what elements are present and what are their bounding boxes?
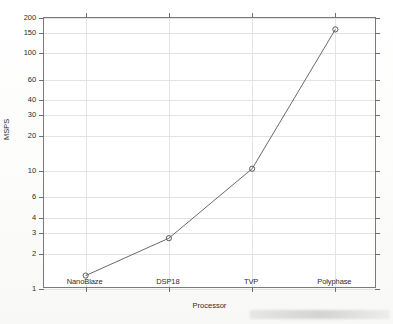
chart-page: MSPS 123461020304060100150200 NanoBlazeD… — [0, 0, 393, 324]
plot-area — [43, 17, 376, 288]
y-axis-tick-label: 40 — [28, 95, 36, 104]
y-axis-tick-label: 60 — [28, 74, 36, 83]
x-axis-title: Processor — [43, 301, 376, 310]
scan-artifact — [250, 310, 390, 319]
y-axis-tick-label: 200 — [24, 13, 36, 22]
y-axis-tick-label: 10 — [28, 166, 36, 175]
x-axis-tick-label: DSP18 — [156, 277, 179, 286]
y-axis-tick-label: 3 — [32, 227, 36, 236]
y-axis-tick — [39, 289, 44, 290]
y-axis-tick-right — [375, 289, 380, 290]
y-axis-tick-label: 1 — [32, 284, 36, 293]
x-axis-tick-label: NanoBlaze — [67, 277, 103, 286]
y-axis-tick-label: 6 — [32, 192, 36, 201]
data-series-layer — [44, 18, 377, 289]
y-axis-tick-label: 100 — [24, 48, 36, 57]
series-markers — [83, 27, 338, 278]
x-axis-tick-label: Polyphase — [317, 277, 351, 286]
y-axis-tick-label: 2 — [32, 248, 36, 257]
y-axis-tick-label: 4 — [32, 213, 36, 222]
y-axis-tick-label: 150 — [24, 27, 36, 36]
gridline-horizontal — [44, 289, 375, 290]
y-axis-tick-label: 30 — [28, 110, 36, 119]
x-axis-tick-label: TVP — [244, 277, 258, 286]
y-axis-title: MSPS — [2, 119, 11, 140]
series-line-msps — [86, 29, 336, 275]
y-axis-tick-label: 20 — [28, 130, 36, 139]
